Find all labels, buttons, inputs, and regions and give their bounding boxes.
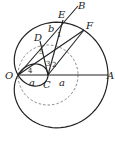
line-CD (40, 41, 48, 75)
label-O: O (5, 70, 13, 81)
label-b: b (48, 23, 54, 34)
label-E: E (57, 9, 66, 20)
angle-3-bottom: 3 (46, 60, 50, 68)
label-a-left: a (29, 77, 35, 88)
angle-4: 4 (28, 67, 33, 75)
label-A: A (106, 70, 114, 81)
label-F: F (85, 20, 94, 31)
angle-1: 1 (57, 31, 61, 39)
label-a-right: a (59, 77, 65, 88)
angle-5: 5 (39, 48, 43, 56)
label-C: C (43, 79, 51, 90)
label-B: B (77, 0, 85, 11)
angle-2: 2 (52, 61, 56, 69)
geometry-diagram: O A B C D E F a a b 1 2 3 4 5 (0, 0, 115, 143)
label-D: D (33, 32, 42, 43)
